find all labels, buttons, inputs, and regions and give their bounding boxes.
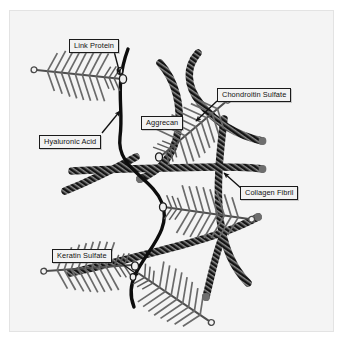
callout-chondroitin-sulfate: Chondroitin Sulfate — [217, 88, 291, 102]
fibril-end-cap — [254, 213, 262, 221]
link-protein-node — [132, 262, 139, 270]
collagen-fibril — [72, 167, 262, 171]
figure-root: Link Protein Chondroitin Sulfate Aggreca… — [0, 0, 343, 341]
callout-hyaluronic-acid: Hyaluronic Acid — [39, 135, 101, 149]
callout-aggrecan: Aggrecan — [141, 116, 183, 130]
fibril-end-cap — [259, 165, 267, 173]
link-protein-node — [160, 203, 167, 211]
diagram-panel: Link Protein Chondroitin Sulfate Aggreca… — [9, 10, 334, 332]
callout-collagen-fibril: Collagen Fibril — [240, 186, 298, 200]
callout-link-protein: Link Protein — [69, 39, 119, 53]
fibril-end-cap — [259, 137, 267, 145]
callout-keratin-sulfate: Keratin Sulfate — [52, 249, 112, 263]
link-protein-node — [130, 274, 136, 281]
link-protein-node — [156, 153, 163, 161]
ecm-diagram — [10, 11, 334, 332]
link-protein-node — [119, 75, 126, 84]
